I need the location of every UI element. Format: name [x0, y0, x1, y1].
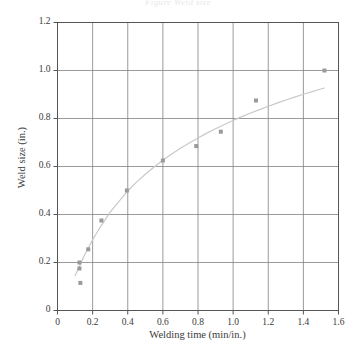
x-tick-label: 0.2 — [78, 317, 108, 327]
x-axis-label: Welding time (min/in.) — [57, 329, 338, 340]
chart-figure: Figure Weld size 00.20.40.60.81.01.21.41… — [0, 0, 356, 354]
x-tick-label: 0 — [43, 317, 73, 327]
data-point — [86, 247, 90, 251]
x-tick-label: 1.0 — [218, 317, 248, 327]
data-point — [322, 69, 326, 73]
y-axis-label: Weld size (in.) — [16, 93, 27, 223]
gridlines-group — [58, 23, 339, 311]
y-tick-label: 1.2 — [25, 16, 51, 26]
data-point — [77, 267, 81, 271]
tick-marks-group — [54, 23, 339, 315]
y-tick-label: 1.0 — [25, 64, 51, 74]
x-tick-label: 1.6 — [324, 317, 354, 327]
data-points-group — [77, 69, 326, 285]
y-tick-label: 0.8 — [25, 112, 51, 122]
x-tick-label: 0.8 — [183, 317, 213, 327]
data-point — [194, 144, 198, 148]
y-tick-label: 0.6 — [25, 160, 51, 170]
fit-curve — [75, 88, 324, 276]
x-tick-label: 0.4 — [113, 317, 143, 327]
scatter-plot-svg — [0, 0, 356, 354]
data-point — [78, 281, 82, 285]
x-tick-label: 1.2 — [253, 317, 283, 327]
y-tick-label: 0.4 — [25, 208, 51, 218]
y-tick-label: 0 — [25, 304, 51, 314]
x-tick-label: 1.4 — [288, 317, 318, 327]
data-point — [161, 159, 165, 163]
data-point — [99, 219, 103, 223]
y-tick-label: 0.2 — [25, 256, 51, 266]
data-point — [254, 99, 258, 103]
x-tick-label: 0.6 — [148, 317, 178, 327]
data-point — [125, 189, 129, 193]
data-point — [77, 261, 81, 265]
data-point — [219, 130, 223, 134]
